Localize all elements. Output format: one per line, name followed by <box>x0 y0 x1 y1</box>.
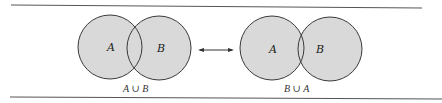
double-arrow-icon <box>198 48 234 52</box>
right-venn-diagram: A B B ∪ A <box>240 16 362 94</box>
circle-a-label: A <box>106 41 115 54</box>
circle-b-label: B <box>315 43 324 56</box>
top-rule <box>11 5 422 8</box>
right-caption: B ∪ A <box>284 83 310 94</box>
venn-union-commutativity-figure: A B A ∪ B A B B ∪ A <box>0 0 442 103</box>
circle-a-label: A <box>268 43 277 56</box>
left-venn-diagram: A B A ∪ B <box>78 15 191 94</box>
bottom-rule <box>10 97 442 99</box>
circle-b-label: B <box>156 42 165 55</box>
left-caption: A ∪ B <box>122 83 148 94</box>
